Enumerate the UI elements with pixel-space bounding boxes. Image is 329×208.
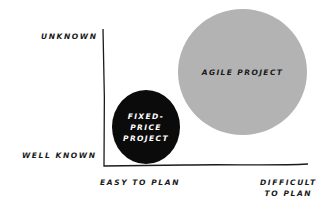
fixed-price-project-bubble: FIXED- PRICE PROJECT	[112, 90, 180, 164]
x-axis-left-label: EASY TO PLAN	[100, 178, 180, 187]
agile-project-bubble: AGILE PROJECT	[178, 9, 307, 135]
x-axis-right-label: DIFFICULT TO PLAN	[260, 177, 317, 199]
y-axis-bottom-label: WELL KNOWN	[22, 151, 97, 160]
y-axis-top-label: UNKNOWN	[41, 32, 98, 41]
fixed-price-project-label: FIXED- PRICE PROJECT	[123, 111, 169, 144]
agile-project-label: AGILE PROJECT	[202, 67, 284, 78]
